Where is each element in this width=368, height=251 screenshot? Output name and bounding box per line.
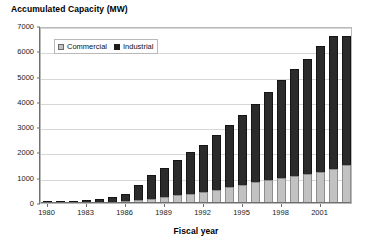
bar-2002: [329, 36, 337, 203]
x-tick-label: 1983: [77, 209, 94, 217]
y-tick-label: 4000: [17, 99, 34, 107]
x-tick-mark: [320, 204, 321, 207]
bars-layer: [41, 28, 351, 203]
y-tick-label: 1000: [17, 175, 34, 183]
legend-swatch-commercial-icon: [58, 44, 64, 50]
bar-segment-commercial: [290, 176, 298, 203]
bar-segment-industrial: [225, 125, 233, 188]
bar-1996: [251, 104, 259, 203]
bar-segment-industrial: [277, 80, 285, 178]
bar-1991: [186, 152, 194, 203]
bar-1987: [134, 185, 142, 203]
x-tick-label: 1986: [116, 209, 133, 217]
bar-1990: [173, 160, 181, 203]
bar-2003: [342, 36, 350, 203]
bar-1995: [238, 115, 246, 204]
y-tick-label: 6000: [17, 49, 34, 57]
y-tick-label: 5000: [17, 74, 34, 82]
axis-baseline: [41, 202, 351, 203]
x-tick-mark: [203, 204, 204, 207]
legend-label-industrial: Industrial: [123, 42, 153, 51]
bar-segment-industrial: [329, 36, 337, 169]
legend-swatch-industrial-icon: [114, 44, 120, 50]
accumulated-capacity-chart: Accumulated Capacity (MW) 01000200030004…: [0, 0, 368, 251]
bar-segment-industrial: [303, 59, 311, 175]
x-tick-mark: [281, 204, 282, 207]
legend-item-industrial: Industrial: [114, 42, 153, 51]
x-tick-label: 1992: [194, 209, 211, 217]
chart-legend: Commercial Industrial: [54, 39, 158, 54]
y-tick-label: 0: [30, 200, 34, 208]
x-axis-title: Fiscal year: [40, 226, 352, 236]
bar-segment-industrial: [316, 46, 324, 172]
bar-segment-commercial: [251, 182, 259, 203]
bar-1998: [277, 80, 285, 203]
x-tick-mark: [125, 204, 126, 207]
bar-segment-commercial: [303, 174, 311, 203]
x-tick-label: 1989: [155, 209, 172, 217]
bar-segment-commercial: [264, 180, 272, 203]
bar-segment-industrial: [134, 185, 142, 200]
bar-segment-commercial: [316, 172, 324, 203]
x-tick-mark: [86, 204, 87, 207]
legend-item-commercial: Commercial: [58, 42, 107, 51]
bar-2000: [303, 59, 311, 203]
legend-label-commercial: Commercial: [67, 42, 107, 51]
bar-segment-industrial: [121, 194, 129, 201]
bar-segment-commercial: [225, 187, 233, 203]
bar-segment-commercial: [342, 165, 350, 203]
x-tick-mark: [47, 204, 48, 207]
bar-segment-commercial: [277, 178, 285, 203]
bar-2001: [316, 46, 324, 203]
bar-1992: [199, 145, 207, 203]
x-tick-mark: [242, 204, 243, 207]
bar-1989: [160, 168, 168, 203]
bar-segment-industrial: [173, 160, 181, 195]
bar-segment-commercial: [238, 185, 246, 203]
bar-segment-industrial: [147, 175, 155, 199]
bar-1988: [147, 175, 155, 203]
bar-segment-industrial: [264, 92, 272, 181]
bar-1994: [225, 125, 233, 203]
x-tick-label: 2001: [311, 209, 328, 217]
bar-1993: [212, 135, 220, 203]
bar-1999: [290, 69, 298, 203]
bar-segment-industrial: [186, 152, 194, 193]
y-tick-label: 7000: [17, 23, 34, 31]
x-tick-label: 1980: [38, 209, 55, 217]
x-axis: 19801983198619891992199519982001: [40, 204, 352, 224]
bar-segment-industrial: [238, 115, 246, 185]
bar-segment-industrial: [160, 168, 168, 197]
plot-area: Commercial Industrial: [40, 27, 352, 204]
y-tick-label: 2000: [17, 150, 34, 158]
bar-segment-industrial: [290, 69, 298, 176]
bar-segment-industrial: [342, 36, 350, 165]
bar-1997: [264, 92, 272, 203]
y-axis: 01000200030004000500060007000: [0, 27, 40, 204]
x-tick-mark: [164, 204, 165, 207]
x-tick-label: 1995: [233, 209, 250, 217]
x-tick-label: 1998: [272, 209, 289, 217]
bar-segment-commercial: [329, 169, 337, 203]
bar-segment-industrial: [199, 145, 207, 192]
chart-title: Accumulated Capacity (MW): [11, 4, 128, 14]
bar-segment-industrial: [251, 104, 259, 182]
y-tick-label: 3000: [17, 124, 34, 132]
bar-segment-industrial: [212, 135, 220, 190]
